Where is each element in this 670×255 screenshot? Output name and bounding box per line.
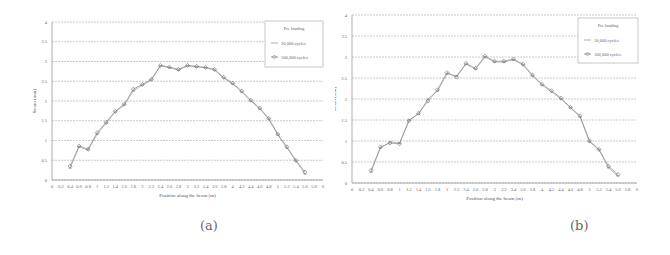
- chart-panel-b: 00.511.522.533.5400.20.40.60.811.21.41.6…: [335, 0, 670, 255]
- x-tick-label: 1: [398, 187, 400, 192]
- legend-title: Pre loading: [598, 23, 619, 28]
- y-tick-label: 1: [345, 139, 347, 144]
- y-tick-label: 2.5: [341, 76, 347, 81]
- x-tick-label: 2.6: [167, 184, 173, 189]
- x-tick-label: 1: [96, 184, 98, 189]
- x-tick-label: 2.8: [482, 187, 488, 192]
- legend-title: Pre loading: [284, 26, 305, 31]
- x-tick-label: 6: [322, 184, 325, 189]
- x-tick-label: 5.6: [302, 184, 308, 189]
- x-tick-label: 5.2: [596, 187, 602, 192]
- x-tick-label: 3.4: [511, 187, 517, 192]
- x-tick-label: 0.2: [359, 187, 365, 192]
- x-tick-label: 3.8: [221, 184, 227, 189]
- x-tick-label: 4.4: [248, 184, 254, 189]
- x-tick-label: 2.8: [176, 184, 182, 189]
- x-tick-label: 0.6: [378, 187, 384, 192]
- y-tick-label: 3.5: [341, 34, 347, 39]
- x-tick-label: 3.8: [530, 187, 536, 192]
- x-tick-label: 4: [232, 184, 235, 189]
- y-tick-label: 2: [45, 99, 47, 104]
- x-tick-label: 5.6: [615, 187, 621, 192]
- x-tick-label: 1.6: [425, 187, 431, 192]
- x-tick-label: 1.4: [416, 187, 422, 192]
- x-tick-label: 5: [277, 184, 280, 189]
- x-tick-label: 3: [493, 187, 496, 192]
- x-tick-label: 5.4: [293, 184, 299, 189]
- x-tick-label: 5.4: [606, 187, 612, 192]
- x-tick-label: 2.2: [149, 184, 155, 189]
- x-tick-label: 4: [541, 187, 544, 192]
- x-axis-title: Position along the beam (m): [159, 193, 216, 198]
- x-tick-label: 3.2: [501, 187, 507, 192]
- x-tick-label: 0: [351, 187, 354, 192]
- x-tick-label: 2: [446, 187, 448, 192]
- x-tick-label: 5.2: [284, 184, 290, 189]
- y-tick-label: 1: [45, 138, 47, 143]
- x-tick-label: 2: [141, 184, 143, 189]
- x-tick-label: 5: [588, 187, 591, 192]
- y-tick-label: 1.5: [41, 118, 47, 123]
- x-tick-label: 0.2: [58, 184, 64, 189]
- x-tick-label: 1.8: [435, 187, 441, 192]
- x-tick-label: 4.4: [558, 187, 564, 192]
- x-tick-label: 4.2: [239, 184, 245, 189]
- y-tick-label: 0: [345, 181, 348, 186]
- y-tick-label: 3: [345, 55, 348, 60]
- x-tick-label: 3.4: [203, 184, 209, 189]
- x-tick-label: 5.8: [311, 184, 317, 189]
- y-tick-label: 3.5: [41, 39, 47, 44]
- figure-caption-b: (b): [570, 218, 588, 233]
- x-axis-title: Position along the beam (m): [466, 196, 523, 201]
- y-axis-title: Strain (mm): [335, 87, 337, 112]
- x-tick-label: 4.6: [568, 187, 574, 192]
- y-tick-label: 0.5: [341, 160, 347, 165]
- y-tick-label: 0: [45, 178, 48, 183]
- x-tick-label: 2.4: [463, 187, 469, 192]
- x-tick-label: 0.6: [76, 184, 82, 189]
- y-tick-label: 2: [345, 97, 347, 102]
- y-tick-label: 1.5: [341, 118, 347, 123]
- x-tick-label: 0.4: [67, 184, 73, 189]
- chart-panel-a: 00.511.522.533.5400.20.40.60.811.21.41.6…: [0, 0, 335, 255]
- x-tick-label: 0.8: [387, 187, 393, 192]
- x-tick-label: 4.8: [266, 184, 272, 189]
- x-tick-label: 0: [51, 184, 54, 189]
- x-tick-label: 2.4: [158, 184, 164, 189]
- x-tick-label: 1.6: [121, 184, 127, 189]
- x-tick-label: 4.6: [257, 184, 263, 189]
- x-tick-label: 4.2: [549, 187, 555, 192]
- x-tick-label: 2.6: [473, 187, 479, 192]
- x-tick-label: 3.6: [212, 184, 218, 189]
- x-tick-label: 1.4: [112, 184, 118, 189]
- x-tick-label: 1.2: [103, 184, 109, 189]
- x-tick-label: 4.8: [577, 187, 583, 192]
- x-tick-label: 2.2: [454, 187, 460, 192]
- x-tick-label: 0.8: [85, 184, 91, 189]
- y-tick-label: 4: [345, 13, 348, 18]
- x-tick-label: 6: [636, 187, 639, 192]
- x-tick-label: 3.2: [194, 184, 200, 189]
- x-tick-label: 3: [186, 184, 189, 189]
- y-tick-label: 2.5: [41, 79, 47, 84]
- figure-caption-a: (a): [200, 218, 218, 233]
- y-axis-title: Strain (mm): [32, 89, 37, 114]
- x-tick-label: 1.8: [130, 184, 136, 189]
- line-chart-a: 00.511.522.533.5400.20.40.60.811.21.41.6…: [0, 0, 335, 255]
- y-tick-label: 0.5: [41, 158, 47, 163]
- x-tick-label: 3.6: [520, 187, 526, 192]
- series-line: [371, 56, 618, 174]
- x-tick-label: 0.4: [368, 187, 374, 192]
- x-tick-label: 1.2: [406, 187, 412, 192]
- line-chart-b: 00.511.522.533.5400.20.40.60.811.21.41.6…: [335, 0, 670, 255]
- x-tick-label: 5.8: [625, 187, 631, 192]
- y-tick-label: 3: [45, 59, 48, 64]
- y-tick-label: 4: [45, 20, 48, 25]
